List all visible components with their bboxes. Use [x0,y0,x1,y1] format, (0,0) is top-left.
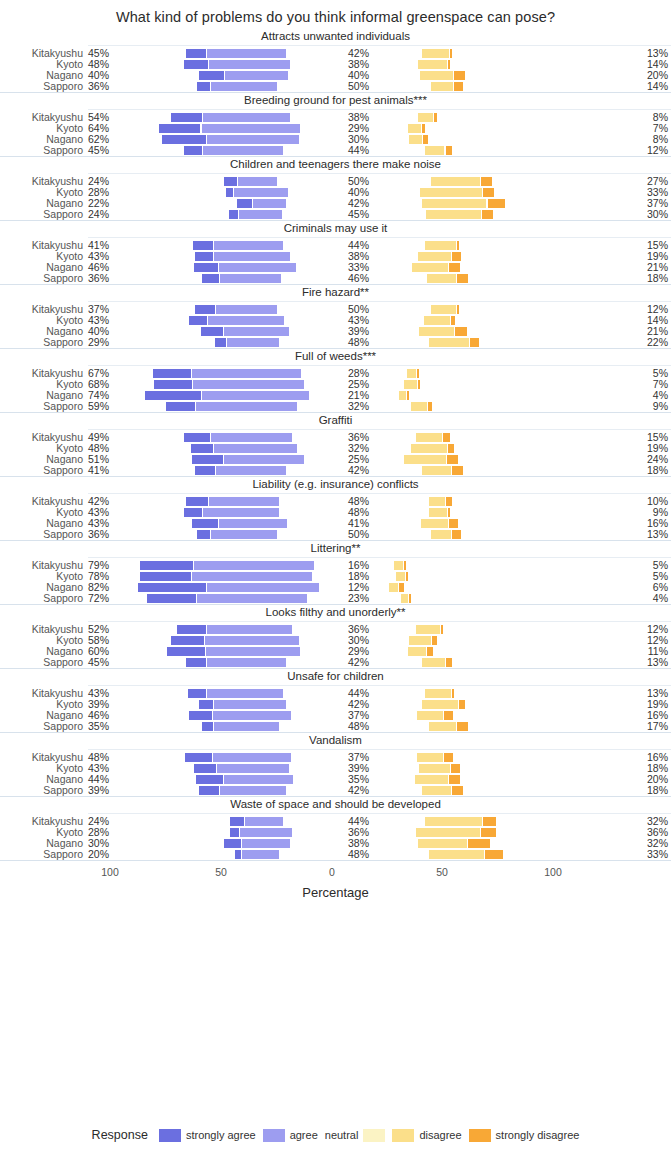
disagree-total-label: 33% [647,849,668,860]
legend-item[interactable]: agree [263,1129,318,1142]
segment-disagree [401,594,408,603]
segment-agree [213,711,292,720]
segment-strongly-disagree [481,177,492,186]
segment-agree [220,786,285,795]
segment-strongly-agree [202,274,220,283]
segment-agree [207,658,286,667]
segment-strongly-disagree [457,241,459,250]
segment-strongly-disagree [418,380,420,389]
segment-disagree [431,530,451,539]
segment-strongly-agree [153,369,191,378]
segment-strongly-disagree [485,850,503,859]
row-bars [0,199,671,208]
row-bars [0,530,671,539]
segment-disagree [389,583,398,592]
legend-item[interactable]: strongly disagree [469,1129,580,1142]
panel-title: Attracts unwanted individuals [0,29,671,44]
row-bars [0,402,671,411]
segment-strongly-disagree [452,466,463,475]
segment-agree [242,839,290,848]
segment-agree [211,82,276,91]
chart-row: Sapporo45%42%13% [0,657,671,668]
segment-strongly-disagree [448,444,455,453]
segment-disagree [425,817,482,826]
panel-body: Kitakyushu45%42%13%Kyoto48%38%14%Nagano4… [0,45,671,93]
segment-strongly-disagree [452,252,461,261]
panel: Full of weeds***Kitakyushu67%28%5%Kyoto6… [0,349,671,413]
disagree-total-label: 17% [647,721,668,732]
row-bars [0,391,671,400]
segment-strongly-disagree [443,433,450,442]
segment-strongly-disagree [448,508,450,517]
segment-disagree [420,71,453,80]
row-bars [0,722,671,731]
row-bars [0,497,671,506]
segment-agree [193,380,305,389]
segment-strongly-disagree [452,786,463,795]
segment-strongly-agree [194,263,218,272]
segment-agree [220,274,281,283]
row-bars [0,305,671,314]
segment-strongly-disagree [451,316,455,325]
legend-label: neutral [325,1129,359,1141]
segment-disagree [431,177,480,186]
segment-strongly-disagree [444,753,453,762]
segment-strongly-agree [197,82,210,91]
row-bars [0,338,671,347]
neutral-label: 45% [348,209,382,220]
neutral-label: 48% [348,337,382,348]
segment-disagree [415,775,448,784]
disagree-total-label: 22% [647,337,668,348]
row-bars [0,60,671,69]
segment-strongly-disagree [459,700,466,709]
neutral-label: 50% [348,81,382,92]
segment-strongly-disagree [404,561,406,570]
segment-agree [242,850,279,859]
neutral-label: 42% [348,465,382,476]
segment-strongly-agree [235,850,242,859]
segment-strongly-agree [188,689,206,698]
segment-disagree [421,519,448,528]
segment-strongly-agree [195,466,215,475]
panel-body: Kitakyushu49%36%15%Kyoto48%32%19%Nagano5… [0,429,671,477]
segment-disagree [429,497,444,506]
legend-item[interactable]: neutral [325,1129,386,1142]
row-bars [0,188,671,197]
legend-item[interactable]: disagree [392,1129,461,1142]
chart-row: Sapporo36%46%18% [0,273,671,284]
panel-title: Looks filthy and unorderly** [0,605,671,620]
segment-strongly-disagree [427,647,434,656]
segment-disagree [426,210,481,219]
segment-agree [214,700,286,709]
segment-disagree [422,49,449,58]
segment-agree [202,124,300,133]
segment-disagree [407,369,416,378]
segment-strongly-disagree [481,828,496,837]
legend-item[interactable]: strongly agree [159,1129,256,1142]
panel: Unsafe for childrenKitakyushu43%44%13%Ky… [0,669,671,733]
segment-strongly-disagree [482,210,493,219]
panel-title: Children and teenagers there make noise [0,157,671,172]
segment-strongly-disagree [406,572,408,581]
segment-disagree [417,711,444,720]
row-bars [0,380,671,389]
row-bars [0,466,671,475]
segment-agree [227,338,279,347]
segment-agree [240,828,292,837]
segment-strongly-agree [166,402,195,411]
row-bars [0,82,671,91]
segment-strongly-agree [230,828,239,837]
chart-row: Sapporo39%42%18% [0,785,671,796]
segment-strongly-agree [167,647,205,656]
panel-title: Vandalism [0,733,671,748]
neutral-label: 32% [348,401,382,412]
row-bars [0,753,671,762]
segment-disagree [422,658,444,667]
legend-label: agree [290,1129,318,1141]
segment-strongly-agree [154,380,192,389]
segment-strongly-disagree [454,82,463,91]
row-bars [0,689,671,698]
chart-panels: Attracts unwanted individualsKitakyushu4… [0,29,671,861]
legend-label: strongly agree [186,1129,256,1141]
segment-disagree [419,764,450,773]
